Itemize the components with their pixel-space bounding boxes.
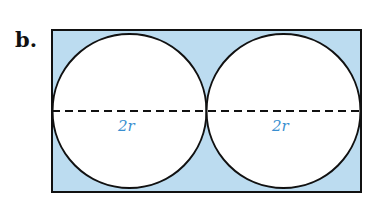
left-dimension-label: 2r <box>117 117 136 135</box>
right-circle <box>207 34 361 188</box>
two-circles-in-rectangle-diagram: 2r 2r <box>0 0 375 204</box>
right-dimension-label: 2r <box>271 117 290 135</box>
